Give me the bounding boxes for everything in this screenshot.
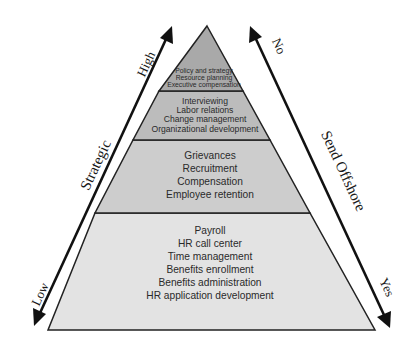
layer-3-item: Employee retention	[166, 189, 254, 200]
layer-4-item: HR call center	[178, 238, 243, 249]
layer-2-item: Organizational development	[151, 124, 259, 134]
arrow-down-icon	[33, 308, 46, 326]
layer-3-item: Grievances	[184, 150, 236, 161]
right-axis-bottom-label: Yes	[376, 275, 398, 298]
layer-4-item: HR application development	[146, 290, 274, 301]
right-axis-label: Send Offshore	[318, 128, 369, 214]
layer-4-item: Benefits enrollment	[166, 264, 253, 275]
arrow-up-icon	[160, 26, 173, 44]
layer-2-item: Change management	[164, 114, 247, 124]
layer-1-text: Policy and strategy Resource planning Ex…	[167, 67, 241, 89]
layer-1-item: Executive compensation	[167, 81, 241, 89]
layer-4-item: Payroll	[194, 225, 225, 236]
hr-pyramid-diagram: Policy and strategy Resource planning Ex…	[0, 0, 413, 352]
layer-4-item: Benefits administration	[158, 277, 261, 288]
layer-3-item: Recruitment	[183, 163, 238, 174]
layer-3-item: Compensation	[177, 176, 243, 187]
right-axis-top-label: No	[269, 36, 289, 57]
layer-4-item: Time management	[168, 251, 253, 262]
